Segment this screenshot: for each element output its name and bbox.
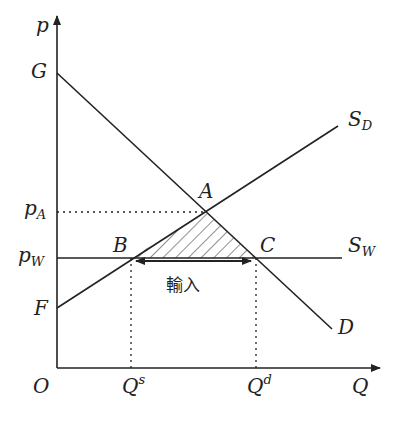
point-B-label: B (112, 233, 128, 257)
SD-label: SD (348, 107, 373, 133)
x-axis-label: Q (352, 374, 368, 398)
G-label: G (31, 59, 47, 83)
origin-label: O (33, 374, 49, 398)
point-C-label: C (260, 233, 275, 257)
import-label: 輸入 (166, 275, 200, 295)
y-axis-label: p (36, 13, 49, 37)
Qd-label: Qd (247, 372, 272, 398)
Qs-label: Qs (122, 372, 145, 398)
import-diagram: p Q O G pA pW F Qs Qd A B C SD SW D 輸入 (0, 0, 403, 427)
point-A-label: A (197, 179, 213, 203)
D-label: D (337, 315, 354, 339)
pW-label: pW (18, 243, 46, 269)
F-label: F (33, 296, 49, 320)
pA-label: pA (24, 196, 46, 222)
SW-label: SW (348, 233, 377, 259)
